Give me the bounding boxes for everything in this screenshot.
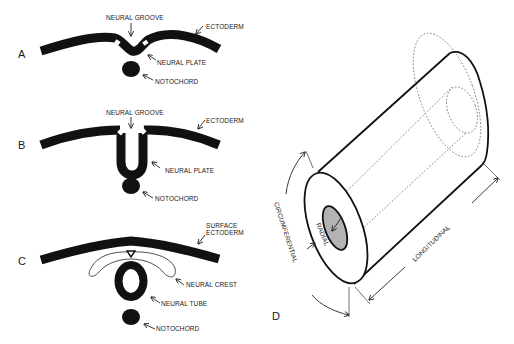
panel-a-letter: A [18,48,26,60]
cylinder-far-end-arc [450,52,488,165]
arrow-icon [148,55,156,60]
longitudinal-tick-near [355,287,370,304]
label-ectoderm: ECTODERM [206,117,244,124]
panel-b-letter: B [18,139,25,151]
cylinder-bottom-edge [354,165,482,284]
panel-c: C SURFACE ECTODERM NEURAL CREST NEURAL T… [18,222,244,332]
cylinder-far-end-hidden [399,25,494,166]
panel-b: B NEURAL GROOVE ECTODERM NEURAL PLATE NO… [18,109,244,202]
panel-a-ectoderm [41,35,219,52]
label-neural-groove: NEURAL GROOVE [106,14,164,21]
panel-b-notochord [122,178,140,194]
panel-d-letter: D [272,310,280,322]
embryology-figure: A NEURAL GROOVE ECTODERM NEURAL PLATE NO… [0,0,514,344]
label-notochord: NOTOCHORD [155,78,199,85]
label-circumferential: CIRCUMFERENTIAL [273,201,299,264]
arrow-icon [198,120,205,129]
radial-arrow-icon [307,243,315,249]
panel-b-ectoderm-left [41,130,120,145]
longitudinal-tick-far [484,164,500,180]
panel-d: D RADIAL CIRCUMFERENTIAL LONGITUDINAL [272,25,500,322]
arrow-icon [143,75,153,80]
longitudinal-arrow-near-icon [369,267,405,300]
arrow-icon [198,235,205,244]
label-surface-ectoderm-line2: ECTODERM [206,229,244,236]
circumferential-arrow-bottom-icon [312,295,349,315]
arrow-icon [151,297,160,303]
arrow-icon [196,26,203,34]
panel-c-letter: C [18,255,26,267]
panel-c-neural-tube [119,265,144,297]
label-longitudinal: LONGITUDINAL [411,223,451,262]
longitudinal-arrow-far-icon [472,178,498,203]
label-neural-plate: NEURAL PLATE [165,167,215,174]
circumferential-arrow-top-icon [286,152,305,194]
label-neural-plate: NEURAL PLATE [157,59,207,66]
label-neural-groove: NEURAL GROOVE [106,109,164,116]
arrow-icon [144,324,155,329]
panel-a: A NEURAL GROOVE ECTODERM NEURAL PLATE NO… [18,14,244,85]
arrow-icon [176,279,184,285]
panel-c-notochord [122,309,140,325]
panel-b-ectoderm-right [144,130,219,145]
label-ectoderm: ECTODERM [206,23,244,30]
circumferential-tick-top [306,151,313,168]
label-notochord: NOTOCHORD [156,325,200,332]
label-notochord: NOTOCHORD [155,195,199,202]
panel-c-crest-cap [127,251,135,257]
arrow-icon [143,192,153,198]
panel-b-neural-fold [121,133,143,175]
label-neural-tube: NEURAL TUBE [161,300,208,307]
arrow-icon [152,162,160,168]
panel-a-notochord [122,61,140,77]
label-surface-ectoderm-line1: SURFACE [206,222,238,229]
lumen-far-end-hidden [441,83,484,138]
label-neural-crest: NEURAL CREST [186,281,237,288]
